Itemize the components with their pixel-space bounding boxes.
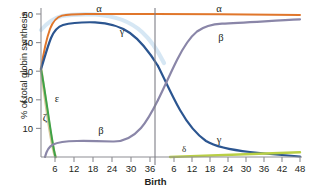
y-tick-20: 20 [22,94,33,105]
x-tick-pre-30: 30 [126,163,137,174]
label-gamma-left: γ [119,26,125,37]
x-tick-pre-24: 24 [107,163,118,174]
x-tick-post-36: 36 [259,163,270,174]
curve-alpha-postnatal [155,14,300,15]
y-tick-30: 30 [22,66,33,77]
x-tick-pre-6: 6 [52,163,57,174]
gamma-halo [41,14,164,63]
label-zeta: ζ [43,112,48,124]
label-beta-right: β [218,32,223,43]
label-alpha-left: α [96,3,102,14]
label-beta-left: β [98,125,103,136]
label-delta: δ [182,144,186,154]
x-tick-post-6: 6 [171,163,176,174]
x-tick-pre-18: 18 [88,163,99,174]
x-tick-post-18: 18 [205,163,216,174]
y-tick-40: 40 [22,37,33,48]
x-tick-pre-36: 36 [145,163,156,174]
x-tick-post-30: 30 [241,163,252,174]
x-tick-post-24: 24 [223,163,234,174]
x-tick-marks-prenatal [55,157,150,162]
x-tick-marks-postnatal [174,157,300,162]
label-alpha-right: α [216,3,222,14]
curve-gamma-postnatal [158,66,300,157]
label-epsilon: ε [55,93,60,104]
x-tick-pre-12: 12 [69,163,80,174]
x-tick-post-48: 48 [295,163,306,174]
y-tick-50: 50 [22,9,33,20]
chart-canvas: 50 40 30 20 10 6 12 18 24 30 36 [0,0,311,193]
y-tick-10: 10 [22,123,33,134]
globin-synthesis-chart: % of total globin synthesis Birth [0,0,311,193]
x-tick-post-12: 12 [187,163,198,174]
label-gamma-right: γ [216,134,222,145]
curve-beta-postnatal [158,19,300,100]
x-tick-post-42: 42 [277,163,288,174]
